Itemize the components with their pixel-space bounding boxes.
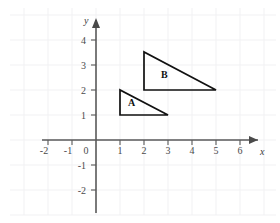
coordinate-plane-figure: -2 -1 0 1 2 3 4 5 6 4 3 2 1 -1 -2 x y A … <box>0 0 280 223</box>
x-tick-label--1: -1 <box>59 146 77 156</box>
y-tick-label-1: 1 <box>74 111 86 121</box>
x-tick-label-1: 1 <box>114 146 126 156</box>
shape-label-b: B <box>161 70 168 80</box>
x-tick-label-2: 2 <box>138 146 150 156</box>
x-tick-label-5: 5 <box>210 146 222 156</box>
shape-label-a: A <box>128 98 135 108</box>
x-axis <box>42 136 258 144</box>
x-tick-label-3: 3 <box>162 146 174 156</box>
grid-lines <box>10 8 276 215</box>
origin-label: 0 <box>80 146 92 156</box>
x-axis-label: x <box>260 147 264 157</box>
triangle-shape-b <box>144 52 216 90</box>
y-tick-label--1: -1 <box>68 161 86 171</box>
x-tick-label-6: 6 <box>234 146 246 156</box>
y-tick-label-2: 2 <box>74 86 86 96</box>
y-tick-label--2: -2 <box>68 186 86 196</box>
y-tick-label-3: 3 <box>74 61 86 71</box>
y-axis-label: y <box>84 16 88 26</box>
x-tick-label--2: -2 <box>35 146 53 156</box>
y-tick-label-4: 4 <box>74 36 86 46</box>
x-tick-label-4: 4 <box>186 146 198 156</box>
plot-canvas <box>0 0 280 223</box>
